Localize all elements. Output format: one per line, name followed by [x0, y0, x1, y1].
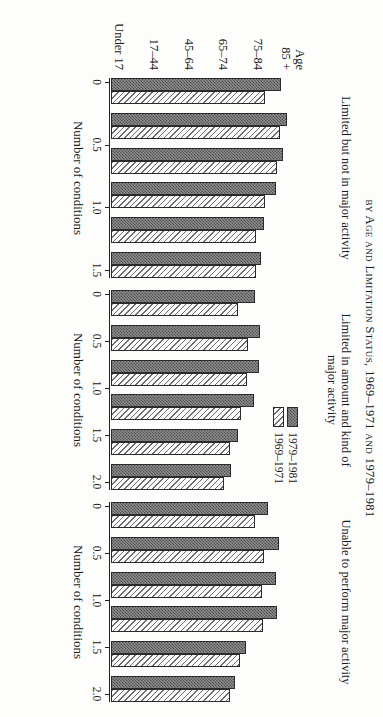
panel-limited-not-major: Limited but not in major activity00.51.0… [53, 78, 353, 278]
bar-group [111, 360, 307, 386]
bar [111, 641, 246, 654]
category-axis: Age85 +75–8465–7445–6417–44Under 17 [53, 0, 353, 76]
bar-group [111, 325, 307, 351]
bar-group [111, 572, 307, 598]
axis-tick-label: 1.5 [91, 640, 103, 654]
plot-area [111, 502, 307, 702]
axis-line [109, 78, 110, 278]
bar [111, 515, 255, 528]
bar [111, 217, 264, 230]
bar-group [111, 502, 307, 528]
category-label: Age85 + [278, 47, 306, 70]
bar [111, 325, 260, 338]
axis-tick [105, 506, 110, 507]
legend-label: 1979–1981 [287, 432, 299, 484]
bar [111, 230, 256, 243]
axis-line [109, 502, 110, 702]
panel-unable-perform: Unable to perform major activity00.51.01… [53, 502, 353, 702]
axis-tick [105, 647, 110, 648]
axis-tick [105, 388, 110, 389]
bar [111, 195, 265, 208]
bar-group [111, 537, 307, 563]
value-axis: 00.51.01.52.0Number of conditions [109, 502, 110, 702]
legend-label: 1969–1971 [273, 432, 285, 484]
bar-group [111, 641, 307, 667]
category-label: 75–84 [250, 39, 264, 70]
axis-tick-label: 0.5 [91, 137, 103, 151]
axis-tick [105, 270, 110, 271]
figure-title: by Age and Limitation Status, 1969–1971 … [362, 0, 377, 717]
bar [111, 182, 276, 195]
axis-tick [105, 145, 110, 146]
panel-title: Unable to perform major activity [339, 502, 353, 702]
bar [111, 78, 281, 91]
bar [111, 477, 224, 490]
bar [111, 303, 238, 316]
figure-rotation-wrapper: by Age and Limitation Status, 1969–1971 … [0, 0, 383, 717]
bars [111, 502, 307, 702]
bar-group [111, 217, 307, 243]
axis-tick [105, 482, 110, 483]
bar-group [111, 148, 307, 174]
panels-container: Limited but not in major activity00.51.0… [53, 78, 353, 710]
category-label: Under 17 [111, 23, 125, 70]
bar [111, 619, 263, 632]
axis-tick-label: 2.0 [91, 687, 103, 701]
bar [111, 252, 261, 265]
bar [111, 442, 230, 455]
bars [111, 78, 307, 278]
bar [111, 148, 283, 161]
axis-tick-label: 0.5 [91, 546, 103, 560]
bar [111, 502, 268, 515]
bar [111, 265, 256, 278]
legend-swatch [274, 407, 285, 427]
axis-tick-label: 0 [91, 291, 103, 297]
bar [111, 126, 280, 139]
category-label: 65–74 [216, 39, 230, 70]
category-label: 17–44 [146, 39, 160, 70]
axis-tick [105, 600, 110, 601]
bar [111, 550, 264, 563]
category-label: 45–64 [181, 39, 195, 70]
bar [111, 161, 277, 174]
bar [111, 676, 235, 689]
axis-tick-label: 0 [91, 503, 103, 509]
bar [111, 689, 230, 702]
bar [111, 537, 279, 550]
axis-tick [105, 294, 110, 295]
panel-title: Limited in amount and kind ofmajor activ… [324, 290, 353, 490]
axis-tick [105, 341, 110, 342]
bar [111, 429, 238, 442]
value-axis: 00.51.01.5Number of conditions [109, 78, 110, 278]
axis-tick-label: 2.0 [91, 475, 103, 489]
bar [111, 606, 277, 619]
bar [111, 290, 255, 303]
axis-tick [105, 207, 110, 208]
axis-tick [105, 553, 110, 554]
axis-tick-label: 0 [91, 79, 103, 85]
axis-line [109, 290, 110, 490]
bar [111, 91, 265, 104]
bar-group [111, 290, 307, 316]
bar [111, 113, 287, 126]
bar [111, 360, 259, 373]
axis-tick-label: 1.0 [91, 381, 103, 395]
legend-item: 1979–1981 [287, 407, 299, 484]
axis-tick-label: 1.0 [91, 200, 103, 214]
bar-group [111, 676, 307, 702]
bar-group [111, 113, 307, 139]
axis-tick-label: 1.5 [91, 428, 103, 442]
panel-limited-amount-kind: Limited in amount and kind ofmajor activ… [53, 290, 353, 490]
axis-tick-label: 1.5 [91, 263, 103, 277]
bar-group [111, 78, 307, 104]
axis-tick [105, 82, 110, 83]
bar [111, 373, 247, 386]
bar [111, 394, 254, 407]
axis-tick [105, 435, 110, 436]
figure: by Age and Limitation Status, 1969–1971 … [0, 0, 383, 717]
bar [111, 585, 262, 598]
axis-tick [105, 694, 110, 695]
bar [111, 654, 240, 667]
axis-tick-label: 1.0 [91, 593, 103, 607]
bar [111, 338, 248, 351]
